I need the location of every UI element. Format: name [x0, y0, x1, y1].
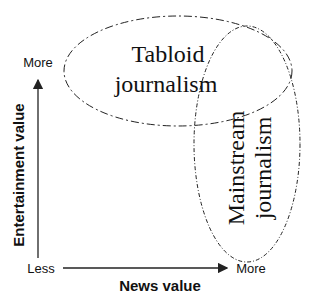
diagram-svg: More Less More Entertainment value News …: [0, 0, 315, 302]
tabloid-label-line2: journalism: [114, 71, 218, 97]
y-axis-low-label: Less: [27, 261, 55, 276]
mainstream-label-line2: journalism: [250, 116, 276, 220]
y-axis-high-label: More: [23, 55, 53, 70]
y-axis-title: Entertainment value: [10, 103, 27, 246]
diagram-canvas: More Less More Entertainment value News …: [0, 0, 315, 302]
x-axis-high-label: More: [236, 261, 266, 276]
mainstream-label-line1: Mainstream: [223, 110, 249, 225]
x-axis-title: News value: [119, 277, 201, 294]
tabloid-label-line1: Tabloid: [132, 41, 205, 67]
